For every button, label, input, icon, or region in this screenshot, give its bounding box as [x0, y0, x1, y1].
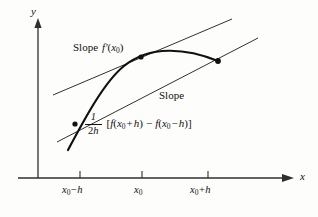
tick-2-term: h: [205, 184, 210, 195]
second-arg-subscript: 0: [167, 122, 171, 131]
second-arg-operator: −: [171, 117, 179, 129]
x-axis-label: x: [300, 171, 305, 182]
y-axis: [34, 18, 41, 178]
graph-canvas: [0, 0, 318, 217]
x-axis: [18, 174, 294, 182]
close-bracket: ]: [188, 117, 192, 129]
bracket-expression: [f(x0+h)−f(x0−h)]: [107, 118, 192, 130]
fraction-numerator: 1: [88, 112, 99, 124]
tick-label-x0: x0: [134, 185, 142, 196]
first-arg-subscript: 0: [122, 122, 126, 131]
first-arg-operator: +: [126, 117, 134, 129]
tick-0-term: h: [77, 184, 82, 195]
tangency-point-marker: [138, 54, 143, 59]
slope-tangent-label: Slopef′(x0): [73, 38, 124, 54]
slope-tangent-word: Slope: [73, 41, 98, 53]
fraction-one-over-two-h: 1 2h: [85, 112, 102, 136]
slope-secant-label: Slope: [159, 90, 184, 101]
formula-minus-sign: −: [143, 117, 155, 129]
slope-tangent-close-paren: ): [120, 41, 124, 53]
secant-left-point-marker: [72, 121, 77, 126]
tick-label-x0-minus-h: x0−h: [62, 185, 83, 196]
y-axis-label: y: [31, 6, 36, 17]
figure-container: y x Slopef′(x0) Slope 1 2h [f(x0+h)−f(x0…: [0, 0, 318, 217]
denominator-variable: h: [93, 125, 98, 136]
tick-1-subscript: 0: [139, 188, 143, 197]
fraction-denominator: 2h: [85, 125, 102, 137]
x-axis-ticks: [80, 171, 208, 178]
tick-label-x0-plus-h: x0+h: [190, 185, 211, 196]
difference-quotient-formula: 1 2h [f(x0+h)−f(x0−h)]: [85, 112, 192, 136]
secant-right-point-marker: [215, 58, 221, 64]
